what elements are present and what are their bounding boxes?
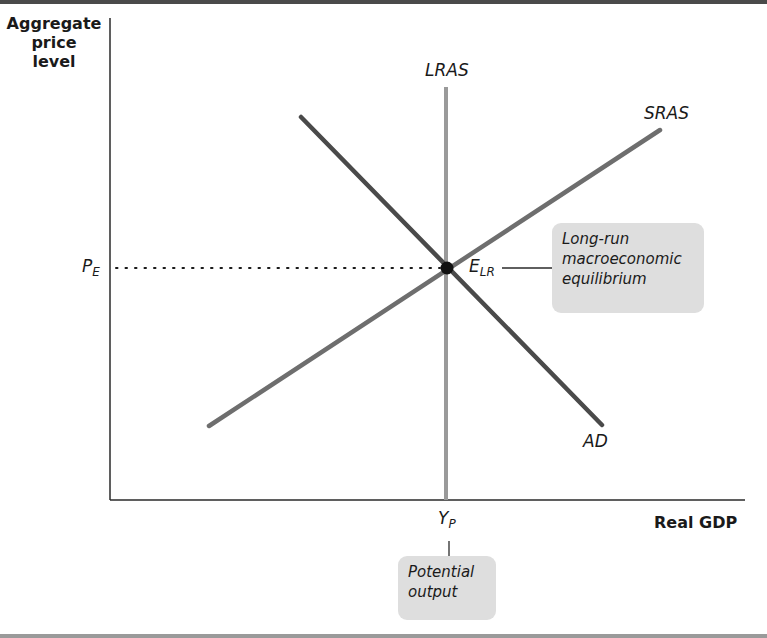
callout-line: Long-run	[562, 229, 694, 249]
callout-line: equilibrium	[562, 269, 694, 289]
equilibrium-callout: Long-run macroeconomic equilibrium	[552, 223, 704, 313]
y-label-line-2: price	[2, 33, 106, 52]
y-label-line-3: level	[2, 52, 106, 71]
eq-sub: LR	[480, 265, 495, 279]
yp-tick-label: YP	[438, 508, 456, 531]
x-axis-label: Real GDP	[654, 513, 737, 532]
equilibrium-point	[441, 262, 454, 275]
yp-sub: P	[448, 517, 455, 531]
lras-label: LRAS	[425, 60, 469, 80]
y-axis-label: Aggregate price level	[2, 14, 106, 71]
pe-sub: E	[92, 265, 100, 279]
eq-main: E	[469, 256, 480, 276]
callout-line: Potential	[408, 562, 486, 582]
pe-main: P	[82, 256, 92, 276]
callout-line: macroeconomic	[562, 249, 694, 269]
y-label-line-1: Aggregate	[2, 14, 106, 33]
chart-canvas	[0, 0, 767, 638]
yp-main: Y	[438, 508, 448, 528]
callout-line: output	[408, 582, 486, 602]
sras-label: SRAS	[644, 103, 689, 123]
ad-label: AD	[583, 431, 608, 451]
potential-output-callout: Potential output	[398, 556, 496, 620]
equilibrium-label: ELR	[469, 256, 495, 279]
pe-tick-label: PE	[82, 256, 100, 279]
